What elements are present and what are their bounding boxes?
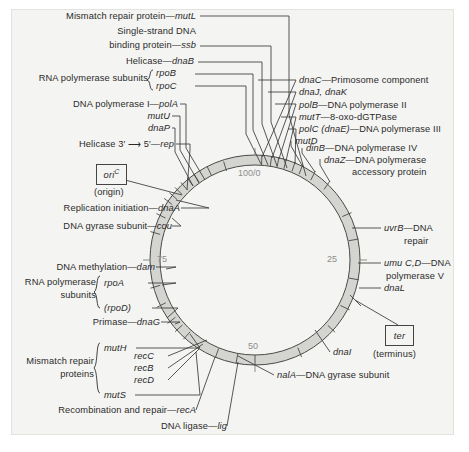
scale-tick-50: 50 <box>248 341 258 351</box>
label-ssb-line1: Single-strand DNA <box>0 26 196 37</box>
label-mismatch-line1: Mismatch repair <box>0 356 94 367</box>
scale-tick-100-0: 100/0 <box>238 168 261 178</box>
oric-caption: (origin) <box>94 187 124 198</box>
label-recC-gene: recC <box>134 351 154 362</box>
label-umuCD-line2: polymerase V <box>386 271 444 282</box>
label-polB-gene: polB <box>299 100 318 110</box>
label-umuCD-gene: umu C,D <box>384 258 421 268</box>
label-ssb-gene: ssb <box>181 40 196 50</box>
label-dnaZ-line2: accessory protein <box>352 167 427 178</box>
label-uvrB-line2: repair <box>404 236 428 247</box>
label-mutH-gene: mutH <box>104 343 127 354</box>
label-dnaZ-gene: dnaZ <box>324 155 346 165</box>
label-ssb: binding protein—ssb <box>0 40 196 51</box>
label-rpoB-gene: rpoB <box>156 68 176 79</box>
label-mutT-gene: mutT <box>299 112 321 122</box>
label-dnaL-gene: dnaL <box>384 283 405 294</box>
label-nalA-gene: nalA <box>277 370 296 380</box>
label-lig-gene: lig <box>217 421 227 431</box>
label-polC: polC (dnaE)—DNA polymerase III <box>299 124 441 135</box>
label-dnaJ-dnaK-gene: dnaJ, dnaK <box>299 87 347 98</box>
label-uvrB-gene: uvrB <box>384 223 404 233</box>
label-dam: DNA methylation—dam <box>0 262 155 273</box>
label-recD-gene: recD <box>134 375 154 386</box>
label-rpoD-gene: (rpoD) <box>104 303 131 314</box>
label-cou-gene: cou <box>157 221 172 231</box>
label-dnaC-gene: dnaC <box>299 75 322 85</box>
label-dinB: dinB—DNA polymerase IV <box>306 143 417 154</box>
label-recA: Recombination and repair—recA <box>0 405 196 416</box>
label-polC-gene: polC (dnaE) <box>299 124 350 134</box>
ter-gene: ter <box>394 331 405 341</box>
label-mutS-gene: mutS <box>104 390 126 401</box>
label-mutL-text: Mismatch repair protein <box>66 11 165 21</box>
label-dnaA-gene: dnaA <box>158 203 180 213</box>
label-cou: DNA gyrase subunit—cou <box>0 221 172 232</box>
label-rpoad-line2: subunits <box>0 290 96 301</box>
label-rpoA-gene: rpoA <box>104 278 124 289</box>
label-rep-gene: rep <box>160 139 174 149</box>
label-uvrB: uvrB—DNA <box>384 223 433 234</box>
label-nalA: nalA—DNA gyrase subunit <box>277 370 389 381</box>
scale-tick-75: 75 <box>157 254 167 264</box>
label-dnaA: Replication initiation—dnaA <box>0 203 180 214</box>
label-recB-gene: recB <box>134 363 154 374</box>
label-dinB-gene: dinB <box>306 143 325 153</box>
figure-canvas: Mismatch repair protein—mutL Single-stra… <box>0 0 469 452</box>
label-mutT: mutT—8-oxo-dGTPase <box>299 112 397 123</box>
ter-box: ter <box>385 325 414 346</box>
label-rna-polymerase-subunits: RNA polymerase subunits <box>0 73 148 84</box>
label-dnaB-gene: dnaB <box>172 56 194 66</box>
label-lig: DNA ligase—lig <box>0 421 227 432</box>
label-dnaI-gene: dnaI <box>333 347 352 358</box>
label-rpoad-line1: RNA polymerase <box>0 277 96 288</box>
label-rep: Helicase 3′ ⟶ 5′—rep <box>0 139 174 150</box>
label-polB: polB—DNA polymerase II <box>299 100 407 111</box>
label-dnaP-gene: dnaP <box>0 123 170 134</box>
label-recA-gene: recA <box>176 405 196 415</box>
label-umuCD: umu C,D—DNA <box>384 258 451 269</box>
label-rpoC-gene: rpoC <box>156 81 177 92</box>
oric-gene: oriC <box>104 168 120 180</box>
label-dnaG-gene: dnaG <box>137 317 160 327</box>
label-dam-gene: dam <box>137 262 155 272</box>
label-mutU-gene: mutU <box>0 111 170 122</box>
scale-tick-25: 25 <box>327 254 337 264</box>
label-dnaZ: dnaZ—DNA polymerase <box>324 155 426 166</box>
oric-box: oriC <box>96 164 127 185</box>
label-mismatch-line2: proteins <box>0 369 94 380</box>
ter-caption: (terminus) <box>373 349 416 360</box>
label-mutL-gene: mutL <box>175 11 196 21</box>
label-dnaG: Primase—dnaG <box>0 317 160 328</box>
label-mutL: Mismatch repair protein—mutL <box>0 11 196 22</box>
label-polA: DNA polymerase I—polA <box>0 99 178 110</box>
label-polA-gene: polA <box>159 99 178 109</box>
label-dnaB: Helicase—dnaB <box>0 56 194 67</box>
label-dnaC: dnaC—Primosome component <box>299 75 429 86</box>
